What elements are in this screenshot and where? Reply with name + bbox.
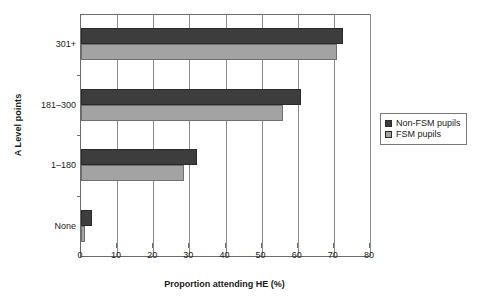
x-axis-tick: [225, 243, 226, 248]
x-axis-tick: [152, 243, 153, 248]
x-axis-tick: [188, 243, 189, 248]
y-axis-tick-label: 1–180: [6, 160, 76, 170]
bar: [81, 149, 197, 165]
bar-chart-figure: A Level points None1–180181–300301+ 0102…: [0, 0, 486, 302]
bar: [81, 210, 92, 226]
x-axis-tick-label: 40: [210, 250, 240, 260]
x-axis-tick: [261, 243, 262, 248]
x-axis-tick: [116, 243, 117, 248]
x-axis-tick-label: 50: [246, 250, 276, 260]
x-axis-tick-label: 70: [318, 250, 348, 260]
x-axis-tick: [80, 243, 81, 248]
legend-item: FSM pupils: [385, 129, 461, 139]
x-axis-tick-label: 20: [137, 250, 167, 260]
y-axis-tick: [77, 135, 81, 136]
x-axis-tick-label: 10: [101, 250, 131, 260]
bar: [81, 226, 85, 242]
x-axis-tick: [369, 243, 370, 248]
y-axis-tick-label: 301+: [6, 39, 76, 49]
legend-swatch-icon: [385, 131, 392, 138]
chart-legend: Non-FSM pupilsFSM pupils: [380, 113, 467, 145]
x-axis-tick-label: 30: [173, 250, 203, 260]
legend-swatch-icon: [385, 120, 392, 127]
bar: [81, 28, 343, 44]
y-axis-tick-label: None: [6, 221, 76, 231]
bar: [81, 105, 283, 121]
legend-item: Non-FSM pupils: [385, 118, 461, 128]
gridline: [370, 14, 371, 256]
bar: [81, 44, 337, 60]
legend-item-label: FSM pupils: [396, 129, 441, 139]
legend-item-label: Non-FSM pupils: [396, 118, 461, 128]
x-axis-tick: [297, 243, 298, 248]
x-axis-tick-label: 60: [282, 250, 312, 260]
x-axis-title: Proportion attending HE (%): [80, 279, 369, 289]
x-axis-tick: [333, 243, 334, 248]
plot-area: [80, 14, 370, 257]
bar: [81, 89, 301, 105]
y-axis-tick: [77, 196, 81, 197]
y-axis-tick-label: 181–300: [6, 100, 76, 110]
y-axis-tick: [77, 75, 81, 76]
bar: [81, 165, 184, 181]
x-axis-tick-label: 80: [354, 250, 384, 260]
x-axis-tick-label: 0: [65, 250, 95, 260]
